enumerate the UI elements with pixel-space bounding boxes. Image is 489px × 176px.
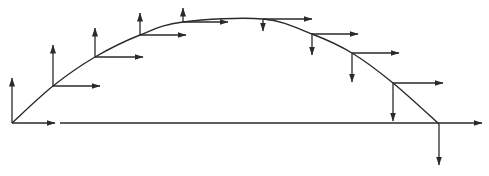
projectile-motion-diagram [0, 0, 489, 176]
parabolic-path [12, 18, 439, 124]
velocity-vectors [12, 8, 443, 165]
trajectory-curve [12, 18, 439, 124]
